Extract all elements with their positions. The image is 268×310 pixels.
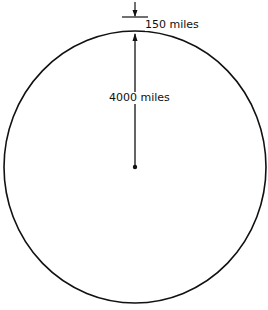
atmosphere-arrowhead: [133, 10, 138, 17]
earth-diagram: [0, 0, 268, 310]
earth-radius-label: 4000 miles: [108, 92, 171, 104]
radius-arrowhead: [133, 33, 138, 41]
center-dot: [133, 165, 137, 169]
atmosphere-thickness-label: 150 miles: [145, 19, 199, 31]
